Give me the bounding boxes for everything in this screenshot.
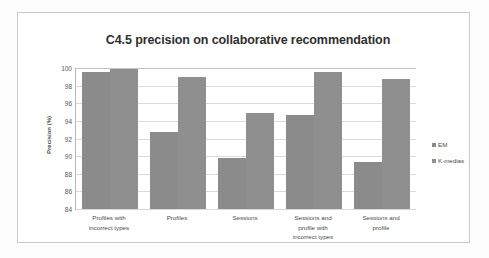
x-axis-category-label: Profiles xyxy=(139,213,215,223)
y-axis-tick-label: 88 xyxy=(65,170,72,177)
bar-group xyxy=(348,68,416,209)
bar-groups xyxy=(76,68,416,209)
x-axis-label-line: Sessions and xyxy=(343,213,419,223)
chart-legend: EMK-medias xyxy=(432,141,489,173)
y-axis-tick-label: 100 xyxy=(61,65,72,72)
x-axis-category-label: Sessions andprofile xyxy=(343,213,419,232)
bar xyxy=(82,72,110,209)
x-axis-category-label: Profiles withincorrect types xyxy=(71,213,147,232)
plot-area: 8486889092949698100 xyxy=(75,68,416,210)
chart-frame: C4.5 precision on collaborative recommen… xyxy=(17,12,470,243)
y-axis-tick-label: 86 xyxy=(65,188,72,195)
bar xyxy=(150,132,178,209)
legend-label: EM xyxy=(438,141,447,148)
chart-title: C4.5 precision on collaborative recommen… xyxy=(58,33,438,47)
x-axis-label-line: incorrect types xyxy=(275,232,351,242)
bar xyxy=(286,115,314,209)
bar xyxy=(246,113,274,209)
bar xyxy=(354,162,382,209)
x-axis-label-line: profile with xyxy=(275,223,351,233)
bar xyxy=(382,79,410,209)
chart-figure: C4.5 precision on collaborative recommen… xyxy=(0,0,489,258)
legend-label: K-medias xyxy=(438,157,464,164)
x-axis-category-label: Sessions xyxy=(207,213,283,223)
bar-group xyxy=(144,68,212,209)
x-axis-label-line: Profiles with xyxy=(71,213,147,223)
bar xyxy=(218,158,246,209)
y-axis-tick-label: 90 xyxy=(65,153,72,160)
legend-item[interactable]: K-medias xyxy=(432,157,489,164)
bar-group xyxy=(212,68,280,209)
legend-item[interactable]: EM xyxy=(432,141,489,148)
x-axis-label-line: Profiles xyxy=(139,213,215,223)
legend-swatch-icon xyxy=(432,159,436,163)
legend-swatch-icon xyxy=(432,143,436,147)
y-axis-tick-label: 84 xyxy=(65,206,72,213)
bar xyxy=(314,72,342,209)
y-axis-tick-label: 96 xyxy=(65,100,72,107)
y-axis-tick-label: 92 xyxy=(65,135,72,142)
x-axis-label-line: profile xyxy=(343,223,419,233)
gridline xyxy=(76,209,416,210)
bar-group xyxy=(280,68,348,209)
bar xyxy=(178,77,206,209)
x-axis-label-line: Sessions xyxy=(207,213,283,223)
y-axis-title: Precision (%) xyxy=(38,47,44,107)
bar-group xyxy=(76,68,144,209)
x-axis-label-line: incorrect types xyxy=(71,223,147,233)
x-axis-label-line: Sessions and xyxy=(275,213,351,223)
x-axis-category-label: Sessions andprofile withincorrect types xyxy=(275,213,351,242)
y-axis-tick-label: 94 xyxy=(65,117,72,124)
y-axis-tick-label: 98 xyxy=(65,82,72,89)
y-axis-title-text: Precision (%) xyxy=(46,116,52,154)
bar xyxy=(110,69,138,209)
